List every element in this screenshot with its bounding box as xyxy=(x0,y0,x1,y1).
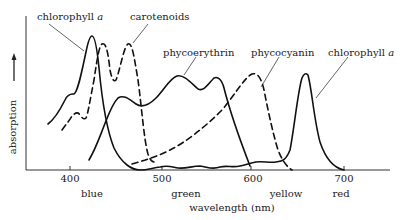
carotenoids-curve xyxy=(62,44,154,162)
phycoerythrin-curve xyxy=(89,76,250,166)
leader-carotenoids xyxy=(133,24,148,43)
tick-label-600: 600 xyxy=(243,173,262,184)
tick-label-700: 700 xyxy=(334,173,353,184)
region-label-yellow: yellow xyxy=(269,188,303,199)
label-chlorophyll-a-left: chlorophyll a xyxy=(37,11,103,22)
label-carotenoids: carotenoids xyxy=(130,11,190,22)
leader-phycoerythrin xyxy=(184,57,196,75)
phycocyanin-curve xyxy=(132,74,292,170)
y-axis-label: absorption xyxy=(7,99,18,154)
leader-chlorophyll-a-right xyxy=(316,57,348,98)
label-chlorophyll-a-right: chlorophyll a xyxy=(328,47,394,58)
region-label-red: red xyxy=(332,188,350,199)
tick-label-400: 400 xyxy=(60,173,79,184)
label-phycocyanin: phycocyanin xyxy=(251,47,315,58)
x-axis-label: wavelength (nm) xyxy=(189,202,275,213)
leader-phycocyanin xyxy=(261,57,279,87)
tick-label-500: 500 xyxy=(152,173,171,184)
region-label-blue: blue xyxy=(81,188,103,199)
region-label-green: green xyxy=(171,188,201,199)
absorption-spectrum-diagram: chlorophyll a carotenoids phycoerythrin … xyxy=(0,0,403,220)
leader-chlorophyll-a-left xyxy=(49,24,84,51)
arrow-up-icon xyxy=(12,53,17,60)
label-phycoerythrin: phycoerythrin xyxy=(163,47,235,58)
